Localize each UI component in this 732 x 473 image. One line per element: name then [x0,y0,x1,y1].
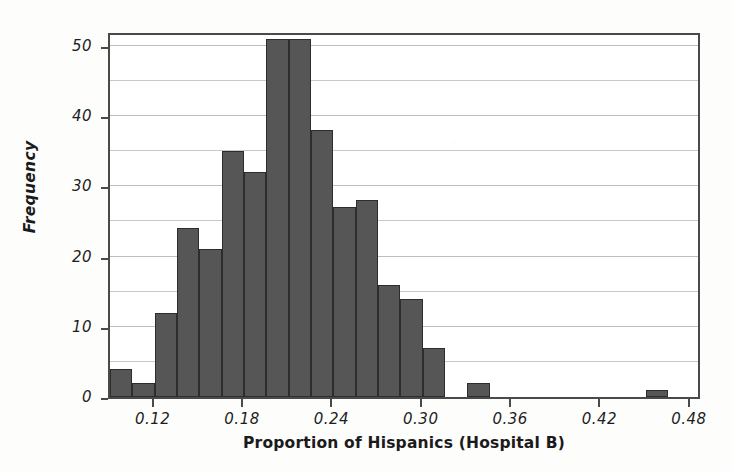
histogram-bar [177,228,199,397]
x-tick-label: 0.12 [118,410,188,428]
histogram-bar [244,172,266,397]
bar-series [110,35,698,397]
histogram-bar [333,207,355,397]
y-tick-mark [101,328,108,330]
y-tick-label: 0 [32,388,92,406]
x-tick-label: 0.18 [207,410,277,428]
histogram-bar [132,383,154,397]
x-tick-mark [688,399,690,407]
x-tick-label: 0.36 [475,410,545,428]
x-axis-title: Proportion of Hispanics (Hospital B) [108,434,700,452]
x-tick-mark [420,399,422,407]
histogram-bar [311,130,333,397]
histogram-bar [378,285,400,397]
histogram-bar [423,348,445,397]
x-tick-mark [241,399,243,407]
x-tick-mark [152,399,154,407]
plot-area [108,33,700,399]
x-tick-mark [509,399,511,407]
y-tick-label: 50 [32,37,92,55]
histogram-bar [356,200,378,397]
histogram-bar [199,249,221,397]
x-tick-label: 0.30 [386,410,456,428]
x-tick-mark [330,399,332,407]
y-tick-mark [101,47,108,49]
histogram-bar [155,313,177,397]
histogram-bar [646,390,668,397]
x-tick-mark [598,399,600,407]
x-tick-label: 0.24 [296,410,366,428]
histogram-bar [467,383,489,397]
y-tick-mark [101,398,108,400]
histogram-bar [110,369,132,397]
histogram-bar [400,299,422,397]
y-tick-label: 20 [32,248,92,266]
histogram-bar [266,39,288,397]
y-tick-label: 40 [32,107,92,125]
y-tick-mark [101,117,108,119]
histogram-bar [222,151,244,397]
y-tick-label: 10 [32,318,92,336]
y-tick-label: 30 [32,177,92,195]
x-tick-label: 0.48 [654,410,724,428]
y-tick-mark [101,258,108,260]
histogram-bar [289,39,311,397]
x-tick-label: 0.42 [564,410,634,428]
y-tick-mark [101,187,108,189]
histogram-figure: Frequency 01020304050 0.120.180.240.300.… [0,0,732,473]
